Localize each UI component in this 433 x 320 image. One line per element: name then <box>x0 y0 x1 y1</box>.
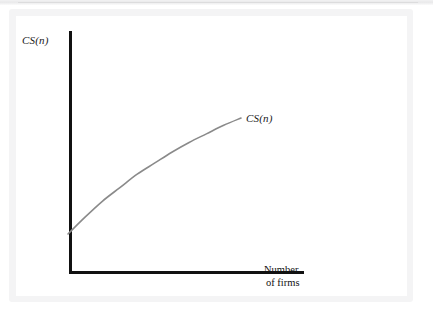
figure-page: CS(n) CS(n) Number of firms <box>0 0 433 320</box>
x-axis-label: Number of firms <box>264 263 300 289</box>
x-axis-label-line1: Number <box>264 263 300 276</box>
cs-curve-path <box>68 118 241 234</box>
curve-label: CS(n) <box>246 112 273 124</box>
y-axis-label: CS(n) <box>22 34 49 46</box>
curve-layer <box>0 0 433 320</box>
x-axis-label-line2: of firms <box>264 276 300 289</box>
consumer-surplus-chart: CS(n) CS(n) Number of firms <box>0 0 433 320</box>
